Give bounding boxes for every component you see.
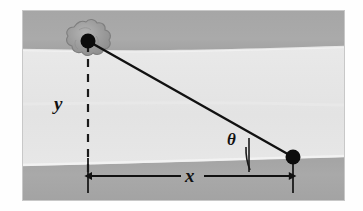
far-bank-point	[81, 34, 96, 49]
label-y: y	[54, 94, 62, 113]
label-x: x	[185, 166, 195, 185]
scene-group	[22, 10, 345, 201]
label-theta: θ	[227, 131, 236, 148]
near-bank-point	[286, 150, 301, 165]
river-diagram-figure: y x θ	[0, 0, 363, 211]
